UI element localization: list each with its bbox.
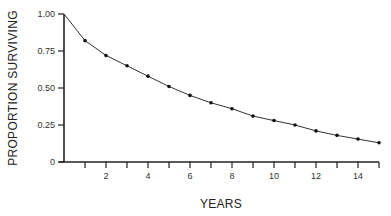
axes: 00.250.500.751.002468101214 xyxy=(37,9,379,181)
data-point xyxy=(335,134,339,138)
x-tick-label: 2 xyxy=(103,171,108,181)
x-axis-title: YEARS xyxy=(200,197,242,211)
data-point xyxy=(83,39,87,43)
plot-area xyxy=(64,14,381,145)
y-tick-label: 0.75 xyxy=(37,46,55,56)
x-tick-label: 4 xyxy=(145,171,150,181)
data-point xyxy=(356,137,360,141)
data-point xyxy=(377,141,381,145)
data-point xyxy=(230,107,234,111)
data-point xyxy=(104,54,108,58)
data-point xyxy=(125,64,129,68)
y-axis-title: PROPORTION SURVIVING xyxy=(6,10,20,166)
y-tick-label: 1.00 xyxy=(37,9,55,19)
data-point xyxy=(314,129,318,133)
data-point xyxy=(188,94,192,98)
data-point xyxy=(167,85,171,89)
x-tick-label: 12 xyxy=(311,171,321,181)
data-point xyxy=(293,123,297,127)
survival-chart: 00.250.500.751.002468101214 YEARS PROPOR… xyxy=(0,0,391,216)
data-point xyxy=(272,119,276,123)
data-point xyxy=(251,114,255,118)
y-tick-label: 0 xyxy=(50,157,55,167)
y-tick-label: 0.25 xyxy=(37,120,55,130)
x-tick-label: 14 xyxy=(353,171,363,181)
data-point xyxy=(209,101,213,105)
x-tick-label: 8 xyxy=(229,171,234,181)
x-tick-label: 6 xyxy=(187,171,192,181)
data-point xyxy=(146,74,150,78)
x-tick-label: 10 xyxy=(269,171,279,181)
survival-curve xyxy=(64,14,379,143)
y-tick-label: 0.50 xyxy=(37,83,55,93)
